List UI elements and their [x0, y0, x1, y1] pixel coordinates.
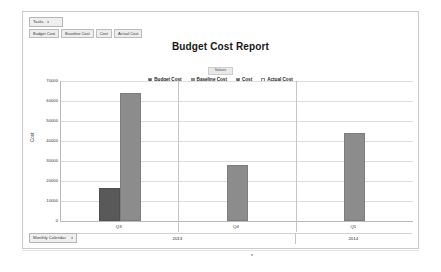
category-axis: Q3Q4Q1 20132014: [60, 222, 412, 248]
y-axis-tick-label: 60000: [32, 99, 58, 103]
quarter-label: Q3: [60, 222, 177, 233]
y-axis-tick-label: 30000: [32, 159, 58, 163]
y-axis-tick-label: 10000: [32, 199, 58, 203]
y-axis-tick-label: 70000: [32, 79, 58, 83]
quarter-label: Q1: [295, 222, 412, 233]
year-separator: [295, 233, 296, 244]
y-axis-tick-label: 20000: [32, 179, 58, 183]
quarter-label: Q4: [177, 222, 294, 233]
category-separator: [296, 81, 297, 232]
bar[interactable]: [227, 165, 248, 221]
bar[interactable]: [120, 93, 141, 221]
y-axis-tick-labels: 010000200003000040000500006000070000: [32, 12, 58, 248]
year-label-row: 20132014: [60, 233, 412, 244]
bar[interactable]: [344, 133, 365, 221]
year-label: 2013: [60, 233, 295, 245]
chart-plot-wrapper: Cost 01000020000300004000050000600007000…: [23, 12, 418, 248]
plot-area: [60, 81, 413, 222]
cursor-marker: [251, 254, 253, 256]
bar[interactable]: [99, 188, 120, 221]
quarter-label-row: Q3Q4Q1: [60, 222, 412, 233]
category-separator: [178, 81, 179, 232]
page-bottom-edge: [22, 250, 419, 251]
y-axis-tick-label: 50000: [32, 119, 58, 123]
budget-cost-report-panel: Tasks ▾ Budget CostBaseline CostCostActu…: [22, 11, 419, 249]
year-label: 2014: [295, 233, 412, 245]
y-axis-tick-label: 40000: [32, 139, 58, 143]
bars-layer: [61, 81, 413, 221]
calendar-period-dropdown[interactable]: Monthly Calendar ▾: [29, 233, 77, 243]
y-axis-tick-label: 0: [32, 219, 58, 223]
chevron-down-icon: ▾: [71, 237, 73, 240]
calendar-dropdown-label: Monthly Calendar: [33, 236, 66, 240]
